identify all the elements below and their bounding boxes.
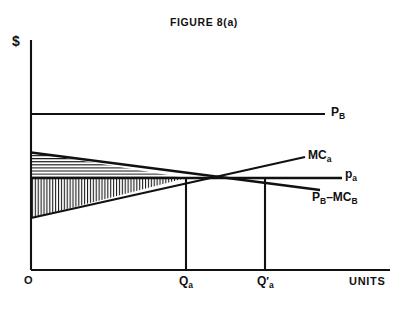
- figure-plot-svg: [0, 0, 408, 313]
- curve-label-pbmcb-dash: –: [326, 190, 333, 204]
- origin-label: O: [24, 274, 33, 286]
- curve-label-pb-base: P: [331, 105, 339, 119]
- curve-label-pbmcb-tail-subscript: B: [352, 196, 358, 206]
- figure-container: FIGURE 8(a): [0, 0, 408, 313]
- curve-label-pbmcb-tail: MC: [333, 190, 352, 204]
- curve-label-pbmcb-lead: P: [312, 190, 320, 204]
- curve-label-mca-subscript: a: [327, 154, 332, 164]
- x-tick-label-qa-prime: Q′a: [257, 274, 274, 288]
- x-axis-label: UNITS: [349, 275, 386, 287]
- curve-label-pa: pa: [345, 167, 357, 181]
- x-tick-label-qa: Qa: [179, 274, 193, 288]
- curve-label-pb-subscript: B: [339, 111, 345, 121]
- y-axis-label: $: [12, 33, 20, 49]
- x-tick-qa-subscript: a: [188, 280, 193, 290]
- x-tick-qa-prime-base: Q: [257, 274, 266, 288]
- x-tick-qa-base: Q: [179, 274, 188, 288]
- curve-label-pa-subscript: a: [352, 173, 357, 183]
- curve-label-mca-base: MC: [308, 148, 327, 162]
- curve-label-pbmcb-lead-subscript: B: [320, 196, 326, 206]
- curve-label-pb: PB: [331, 105, 345, 119]
- x-tick-qa-prime-subscript: a: [269, 280, 274, 290]
- curve-label-mca: MCa: [308, 148, 331, 162]
- curve-label-pb-minus-mcb: PB–MCB: [312, 190, 358, 204]
